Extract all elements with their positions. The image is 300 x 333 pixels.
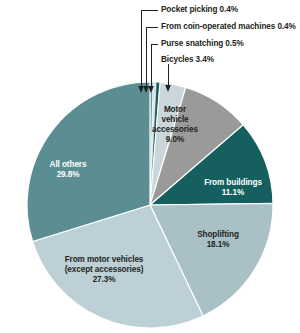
leader-line-coin-operated — [146, 27, 158, 88]
wedge-label-line: All others — [22, 160, 114, 170]
wedge-label-line: Shoplifting — [176, 230, 260, 240]
callout-label-bicycles: Bicycles 3.4% — [161, 56, 214, 64]
wedge-label-percent: 18.1% — [176, 240, 260, 250]
wedge-label-motor-vehicle-accessories: Motor vehicle accessories 9.0% — [139, 105, 211, 145]
wedge-label-percent: 27.3% — [28, 275, 180, 285]
wedge-label-from-buildings: From buildings 11.1% — [190, 178, 276, 198]
wedge-label-line: Motor — [139, 105, 211, 115]
wedge-label-line: accessories — [139, 125, 211, 135]
leader-line-pocket-picking — [141, 10, 158, 88]
wedge-label-line: From motor vehicles — [28, 255, 180, 265]
wedge-label-from-motor-vehicles: From motor vehicles (except accessories)… — [28, 255, 180, 285]
callout-label-purse-snatching: Purse snatching 0.5% — [161, 40, 244, 48]
wedge-label-shoplifting: Shoplifting 18.1% — [176, 230, 260, 250]
wedge-label-line: (except accessories) — [28, 265, 180, 275]
leader-line-purse-snatching — [151, 44, 158, 88]
wedge-label-all-others: All others 29.8% — [22, 160, 114, 180]
wedge-label-percent: 29.8% — [22, 170, 114, 180]
callout-label-coin-operated-machines: From coin-operated machines 0.4% — [161, 23, 296, 31]
wedge-label-line: vehicle — [139, 115, 211, 125]
wedge-label-percent: 9.0% — [139, 135, 211, 145]
callout-label-pocket-picking: Pocket picking 0.4% — [161, 6, 238, 14]
wedge-label-line: From buildings — [190, 178, 276, 188]
pie-chart: Pocket picking 0.4% From coin-operated m… — [0, 0, 300, 333]
wedge-label-percent: 11.1% — [190, 188, 276, 198]
